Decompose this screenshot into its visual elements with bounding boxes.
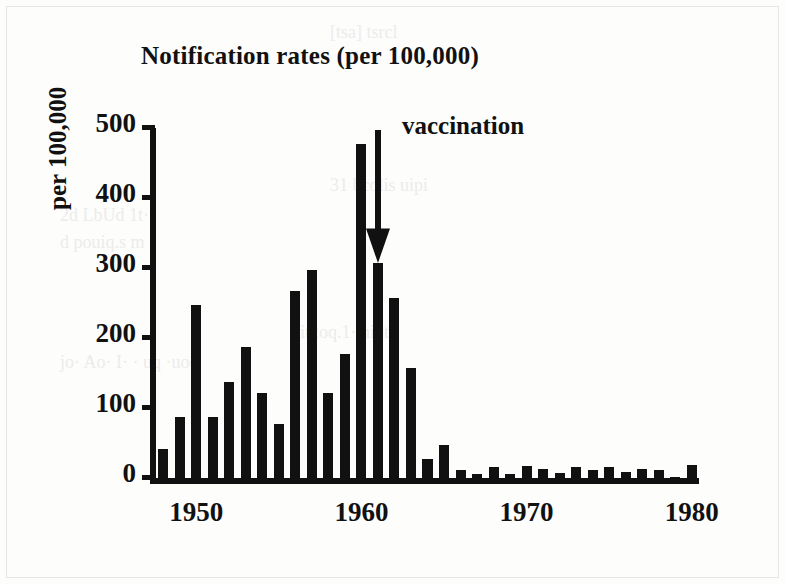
bar (307, 270, 317, 480)
bar (637, 469, 647, 480)
bar (422, 459, 432, 480)
bar (439, 445, 449, 480)
bar (224, 382, 234, 480)
bar (538, 469, 548, 480)
bar (621, 472, 631, 480)
bar-chart: Notification rates (per 100,000) per 100… (0, 0, 785, 584)
bar (555, 473, 565, 480)
bar (191, 305, 201, 480)
bar (670, 477, 680, 480)
x-tick-label: 1980 (665, 497, 719, 528)
y-tick-label: 0 (123, 460, 137, 487)
y-tick: 300 (142, 265, 155, 270)
y-tick-label: 400 (96, 180, 137, 207)
y-tick-label: 200 (96, 320, 137, 347)
vaccination-annotation-label: vaccination (402, 112, 524, 140)
bar (571, 467, 581, 480)
bar (522, 466, 532, 480)
y-tick: 0 (142, 475, 155, 480)
bar (406, 368, 416, 480)
x-tick-label: 1970 (500, 497, 554, 528)
bar (290, 291, 300, 480)
y-tick: 200 (142, 335, 155, 340)
y-tick: 100 (142, 405, 155, 410)
bar (489, 467, 499, 480)
bar (208, 417, 218, 480)
y-axis-title: per 100,000 (44, 87, 72, 210)
bar (389, 298, 399, 480)
x-tick-label: 1960 (334, 497, 388, 528)
bar (588, 470, 598, 480)
chart-title: Notification rates (per 100,000) (0, 42, 620, 70)
x-tick-label: 1950 (169, 497, 223, 528)
bar (340, 354, 350, 480)
bar (323, 393, 333, 481)
y-tick-label: 300 (96, 250, 137, 277)
bar (604, 467, 614, 480)
bar (456, 470, 466, 481)
y-tick-label: 100 (96, 390, 137, 417)
plot-area: 0100200300400500 (155, 130, 700, 480)
bar (687, 465, 697, 480)
y-tick-label: 500 (96, 110, 137, 137)
vaccination-down-arrow-icon (364, 130, 392, 263)
scanned-page: [tsa] tsrcl 31 bcolis uipi 2d LbUd 1t· d… (0, 0, 785, 584)
bar (274, 424, 284, 480)
y-tick: 400 (142, 195, 155, 200)
bar (175, 417, 185, 480)
y-tick: 500 (142, 125, 155, 130)
bar (373, 263, 383, 480)
bar (158, 449, 168, 481)
bar (241, 347, 251, 480)
bar (654, 470, 664, 480)
bar (505, 474, 515, 480)
bar (472, 474, 482, 480)
bar (257, 393, 267, 481)
